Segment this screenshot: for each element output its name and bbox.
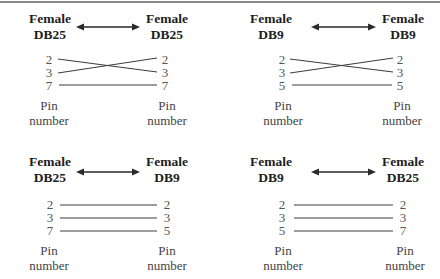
- double-arrow-icon: [76, 169, 140, 176]
- pin-number-caption: Pin number: [256, 243, 310, 273]
- panel-db25-to-db25: Female DB25 Female DB25 2 3 7 2 3 7 Pin …: [0, 0, 220, 139]
- pin-number-caption: Pin number: [256, 98, 310, 128]
- pin-number-caption: Pin number: [22, 243, 76, 273]
- pin-number-caption: Pin number: [140, 98, 194, 128]
- pin-number: 5: [161, 224, 173, 237]
- double-arrow-icon: [311, 169, 376, 176]
- pin-number-caption: Pin number: [22, 98, 76, 128]
- pin-number-caption: Pin number: [378, 243, 432, 273]
- double-arrow-icon: [311, 24, 376, 31]
- panel-db9-to-db9: Female DB9 Female DB9 2 3 5 2 3 5 Pin nu…: [220, 0, 440, 139]
- pin-number: 5: [394, 79, 406, 92]
- pin-number: 7: [43, 79, 55, 92]
- pin-number: 5: [276, 79, 288, 92]
- pin-number: 7: [159, 79, 171, 92]
- pin-number-caption: Pin number: [375, 98, 429, 128]
- panel-db9-to-db25: Female DB9 Female DB25 2 3 5 2 3 7 Pin n…: [220, 140, 440, 279]
- pin-number: 7: [44, 224, 56, 237]
- pin-number-caption: Pin number: [140, 243, 194, 273]
- panel-db25-to-db9: Female DB25 Female DB9 2 3 7 2 3 5 Pin n…: [0, 140, 220, 279]
- pin-number: 5: [276, 224, 288, 237]
- pin-number: 7: [397, 224, 409, 237]
- double-arrow-icon: [76, 24, 140, 31]
